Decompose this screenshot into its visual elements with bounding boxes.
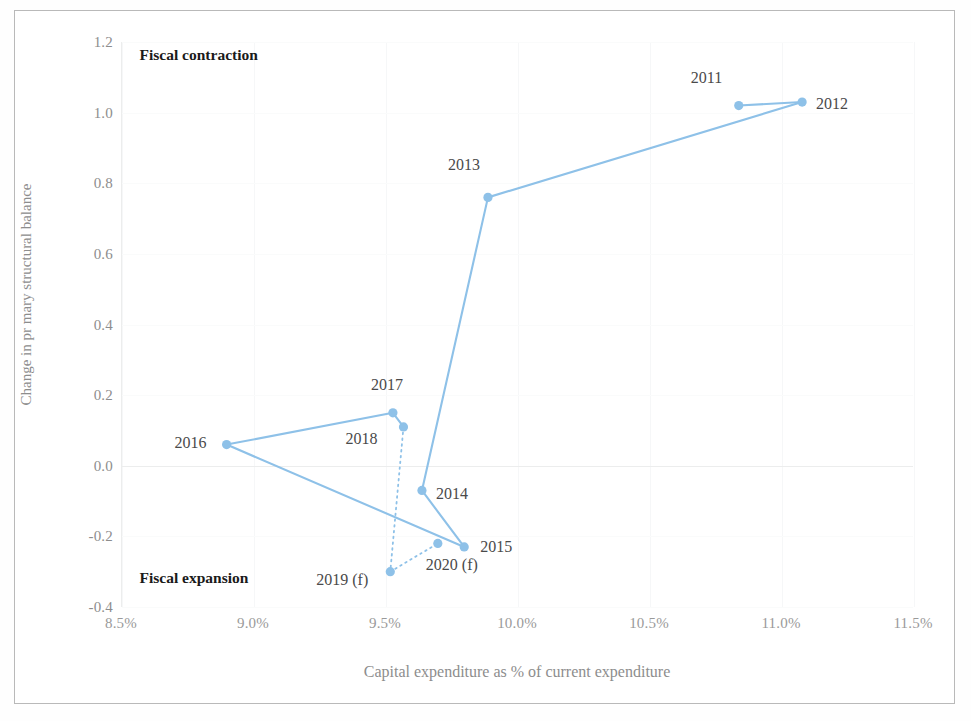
data-point-label: 2017 [371,376,403,394]
data-point-label: 2011 [691,69,722,87]
fiscal-expansion-note: Fiscal expansion [139,569,248,587]
scanned-page: 1.21.00.80.60.40.20.0-0.2-0.4 8.5%9.0%9.… [0,0,971,721]
page-border-frame: 1.21.00.80.60.40.20.0-0.2-0.4 8.5%9.0%9.… [14,10,955,704]
fiscal-stance-chart: 1.21.00.80.60.40.20.0-0.2-0.4 8.5%9.0%9.… [1,1,971,721]
data-point-label: 2020 (f) [426,556,478,574]
fiscal-contraction-note: Fiscal contraction [139,46,257,64]
data-point-label: 2015 [480,538,512,556]
data-point-label: 2014 [436,485,468,503]
chart-labels-layer: 201120122013201420152016201720182019 (f)… [1,1,971,721]
data-point-label: 2016 [175,434,207,452]
data-point-label: 2012 [816,95,848,113]
data-point-label: 2019 (f) [316,571,368,589]
data-point-label: 2018 [345,430,377,448]
data-point-label: 2013 [448,156,480,174]
